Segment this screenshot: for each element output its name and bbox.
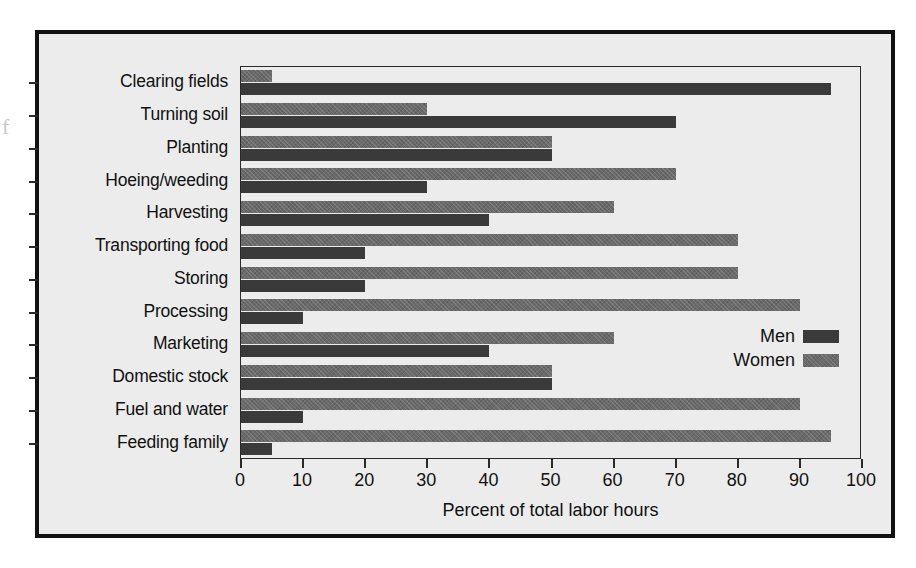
x-axis-tick-label: 20 bbox=[354, 470, 374, 491]
x-axis-tick-label: 50 bbox=[540, 470, 560, 491]
category-label: Hoeing/weeding bbox=[105, 170, 228, 191]
bar-women bbox=[241, 234, 738, 246]
bar-men bbox=[241, 181, 427, 193]
x-axis-tick-label: 30 bbox=[416, 470, 436, 491]
category-tick bbox=[29, 115, 38, 117]
bar-women bbox=[241, 430, 831, 442]
x-axis-tick-label: 0 bbox=[235, 470, 245, 491]
legend-swatch-women bbox=[803, 354, 839, 367]
bar-women bbox=[241, 136, 552, 148]
category-tick bbox=[29, 443, 38, 445]
category-label: Processing bbox=[143, 301, 228, 322]
bar-group bbox=[241, 133, 860, 166]
x-axis-tick-label: 10 bbox=[292, 470, 312, 491]
legend-label: Men bbox=[760, 326, 795, 347]
bar-group bbox=[241, 198, 860, 231]
bar-men bbox=[241, 411, 303, 423]
bar-men bbox=[241, 149, 552, 161]
category-tick bbox=[29, 213, 38, 215]
category-tick bbox=[29, 344, 38, 346]
category-tick bbox=[29, 181, 38, 183]
category-axis: Clearing fieldsTurning soilPlantingHoein… bbox=[39, 66, 228, 459]
bar-group bbox=[241, 395, 860, 428]
category-label: Transporting food bbox=[95, 235, 228, 256]
bar-women bbox=[241, 398, 800, 410]
legend-swatch-men bbox=[803, 330, 839, 343]
plot-area bbox=[240, 66, 861, 459]
x-axis-tick bbox=[613, 459, 615, 468]
bar-women bbox=[241, 365, 552, 377]
x-axis-tick-label: 70 bbox=[665, 470, 685, 491]
page-edge-artifact: f bbox=[2, 112, 10, 142]
x-axis-tick bbox=[488, 459, 490, 468]
bar-men bbox=[241, 214, 489, 226]
x-axis-tick bbox=[799, 459, 801, 468]
category-tick bbox=[29, 279, 38, 281]
x-axis-title: Percent of total labor hours bbox=[240, 500, 861, 521]
x-axis-tick-label: 60 bbox=[603, 470, 623, 491]
bar-men bbox=[241, 116, 676, 128]
bar-women bbox=[241, 332, 614, 344]
category-tick bbox=[29, 312, 38, 314]
category-label: Harvesting bbox=[146, 202, 228, 223]
bar-men bbox=[241, 443, 272, 455]
category-tick bbox=[29, 377, 38, 379]
figure-frame: Clearing fieldsTurning soilPlantingHoein… bbox=[35, 30, 895, 538]
x-axis-tick bbox=[861, 459, 863, 468]
legend-item: Men bbox=[639, 324, 839, 348]
category-label: Fuel and water bbox=[115, 399, 228, 420]
category-label: Storing bbox=[174, 268, 228, 289]
bar-group bbox=[241, 100, 860, 133]
bar-group bbox=[241, 427, 860, 460]
x-axis-tick bbox=[302, 459, 304, 468]
bar-women bbox=[241, 299, 800, 311]
category-tick bbox=[29, 148, 38, 150]
bar-men bbox=[241, 345, 489, 357]
category-label: Turning soil bbox=[141, 104, 228, 125]
legend-label: Women bbox=[733, 350, 795, 371]
bar-men bbox=[241, 247, 365, 259]
x-axis-tick bbox=[240, 459, 242, 468]
bar-women bbox=[241, 70, 272, 82]
bar-men bbox=[241, 312, 303, 324]
bar-group bbox=[241, 264, 860, 297]
x-axis-tick bbox=[675, 459, 677, 468]
bar-women bbox=[241, 103, 427, 115]
category-label: Planting bbox=[166, 137, 228, 158]
category-tick bbox=[29, 82, 38, 84]
category-label: Clearing fields bbox=[120, 71, 228, 92]
bar-women bbox=[241, 201, 614, 213]
bar-group bbox=[241, 67, 860, 100]
legend-item: Women bbox=[639, 348, 839, 372]
bar-women bbox=[241, 267, 738, 279]
x-axis-tick bbox=[426, 459, 428, 468]
category-label: Marketing bbox=[153, 333, 228, 354]
bar-women bbox=[241, 168, 676, 180]
category-label: Domestic stock bbox=[112, 366, 228, 387]
x-axis-tick-label: 80 bbox=[727, 470, 747, 491]
category-tick bbox=[29, 410, 38, 412]
bar-men bbox=[241, 378, 552, 390]
bar-group bbox=[241, 165, 860, 198]
category-tick bbox=[29, 246, 38, 248]
x-axis-tick-label: 100 bbox=[846, 470, 876, 491]
bar-men bbox=[241, 83, 831, 95]
bar-group bbox=[241, 231, 860, 264]
x-axis-tick bbox=[364, 459, 366, 468]
x-axis-tick bbox=[737, 459, 739, 468]
x-axis-tick bbox=[551, 459, 553, 468]
category-label: Feeding family bbox=[117, 432, 228, 453]
chart-legend: MenWomen bbox=[639, 324, 839, 372]
x-axis-tick-label: 40 bbox=[478, 470, 498, 491]
bar-men bbox=[241, 280, 365, 292]
x-axis-tick-label: 90 bbox=[789, 470, 809, 491]
value-axis: 0102030405060708090100 bbox=[240, 459, 863, 499]
